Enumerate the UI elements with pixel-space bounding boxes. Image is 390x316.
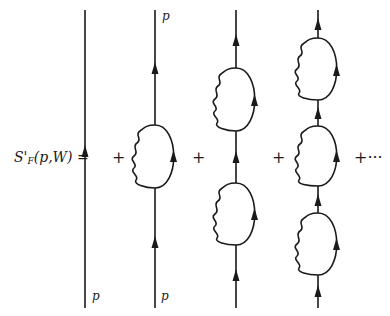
- arrow-up-icon: [233, 269, 240, 281]
- arrow-up-icon: [315, 107, 322, 119]
- arrow-up-icon: [251, 208, 258, 220]
- arrow-up-icon: [315, 194, 322, 206]
- arrow-up-icon: [333, 64, 340, 76]
- photon-wavy-line: [295, 126, 318, 186]
- symbol-s-prime: S': [14, 149, 27, 165]
- momentum-label-top: p: [162, 10, 170, 22]
- fermion-loop-arc: [236, 68, 255, 131]
- one-loop-propagator: [132, 10, 177, 308]
- equals-sign: =: [77, 149, 89, 165]
- fermion-loop-arc: [236, 183, 255, 245]
- momentum-label-bottom: p: [161, 290, 169, 302]
- arrow-up-icon: [170, 150, 177, 162]
- arrow-up-icon: [152, 62, 159, 74]
- fermion-loop-arc: [155, 125, 174, 188]
- feynman-diagram: S'F(p,W) = + + + +··· p p p: [0, 0, 390, 316]
- arrow-up-icon: [233, 34, 240, 46]
- photon-wavy-line: [213, 68, 236, 131]
- plus-ellipsis: +···: [354, 150, 383, 166]
- propagator-args: (p,W): [34, 149, 73, 165]
- arrow-up-icon: [152, 236, 159, 248]
- arrow-up-icon: [315, 285, 322, 297]
- arrow-up-icon: [251, 94, 258, 106]
- plus-sign: +: [272, 150, 285, 166]
- arrow-up-icon: [333, 150, 340, 162]
- propagator-symbol: S'F(p,W) =: [14, 150, 89, 166]
- two-loop-propagator: [213, 10, 258, 308]
- plus-sign: +: [112, 150, 125, 166]
- arrow-up-icon: [315, 18, 322, 30]
- photon-wavy-line: [213, 183, 236, 245]
- photon-wavy-line: [132, 125, 155, 188]
- plus-sign: +: [192, 150, 205, 166]
- momentum-label-bottom: p: [92, 290, 100, 302]
- photon-wavy-line: [295, 213, 318, 275]
- arrow-up-icon: [333, 238, 340, 250]
- fermion-loop-arc: [318, 213, 337, 275]
- fermion-loop-arc: [318, 126, 337, 186]
- fermion-loop-arc: [318, 38, 337, 100]
- photon-wavy-line: [295, 38, 318, 100]
- arrow-up-icon: [233, 151, 240, 163]
- three-loop-propagator: [295, 10, 340, 308]
